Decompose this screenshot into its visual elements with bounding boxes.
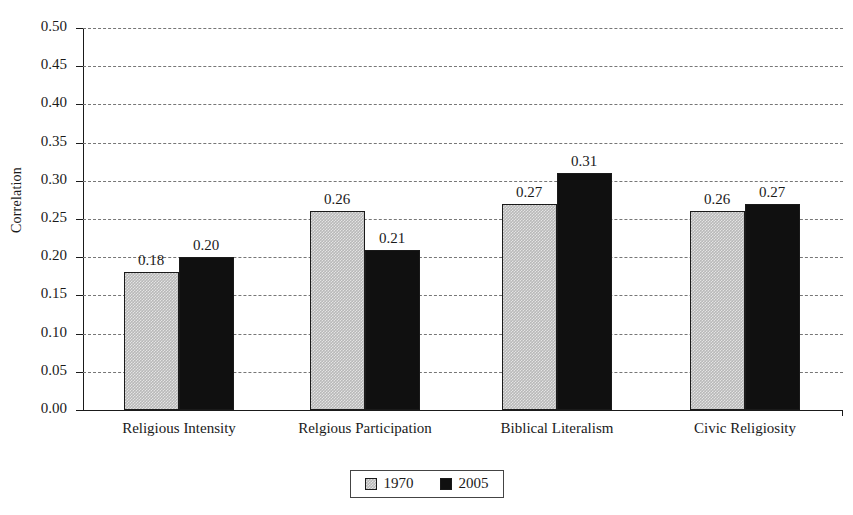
y-axis-tick-label: 0.50: [41, 18, 67, 35]
y-axis-tick: 0.45: [76, 66, 83, 67]
bar-value-label: 0.21: [379, 230, 405, 247]
bar-value-label: 0.26: [704, 191, 730, 208]
legend-entry-2005: 2005: [440, 475, 489, 492]
y-axis-tick: 0.50: [76, 28, 83, 29]
y-axis-tick: 0.10: [76, 334, 83, 335]
legend-entry-1970: 1970: [365, 475, 414, 492]
bar-value-label: 0.26: [324, 191, 350, 208]
bar-value-label: 0.18: [138, 252, 164, 269]
bar-group: 0.260.21: [310, 28, 420, 410]
y-axis-tick-label: 0.10: [41, 324, 67, 341]
y-axis-tick-label: 0.20: [41, 247, 67, 264]
y-axis-tick: 0.05: [76, 372, 83, 373]
y-axis-tick: 0.40: [76, 104, 83, 105]
y-axis-tick: 0.00: [76, 410, 83, 411]
bar-value-label: 0.20: [193, 237, 219, 254]
y-axis-tick-label: 0.00: [41, 400, 67, 417]
bar-1970-2: [310, 211, 365, 410]
legend-swatch-icon-2005: [440, 478, 452, 490]
bar-value-label: 0.31: [571, 153, 597, 170]
y-axis-title: Correlation: [9, 145, 25, 255]
y-axis-tick-label: 0.25: [41, 209, 67, 226]
y-axis-tick-label: 0.15: [41, 285, 67, 302]
y-axis-tick: 0.15: [76, 295, 83, 296]
y-axis-tick: 0.35: [76, 143, 83, 144]
plot-area: 0.000.050.100.150.200.250.300.350.400.45…: [83, 28, 843, 410]
bar-value-label: 0.27: [759, 184, 785, 201]
bar-2005-1: [179, 257, 234, 410]
legend: 1970 2005: [350, 470, 504, 498]
y-axis-tick-label: 0.30: [41, 171, 67, 188]
bar-1970-4: [690, 211, 745, 410]
y-axis-tick-label: 0.45: [41, 56, 67, 73]
legend-swatch-icon-1970: [365, 478, 377, 490]
y-axis-tick-label: 0.40: [41, 94, 67, 111]
bar-value-label: 0.27: [516, 184, 542, 201]
y-axis-tick-label: 0.05: [41, 362, 67, 379]
x-axis-category-label: Civic Religiosity: [615, 420, 853, 437]
bar-group: 0.260.27: [690, 28, 800, 410]
gridline: [83, 410, 843, 411]
y-axis-tick: 0.30: [76, 181, 83, 182]
y-axis-tick-label: 0.35: [41, 133, 67, 150]
y-axis-tick: 0.25: [76, 219, 83, 220]
bar-group: 0.270.31: [502, 28, 612, 410]
legend-label-2005: 2005: [459, 475, 489, 492]
bar-1970-1: [124, 272, 179, 410]
bar-chart: Correlation 0.000.050.100.150.200.250.30…: [0, 0, 853, 515]
bar-2005-3: [557, 173, 612, 410]
bar-group: 0.180.20: [124, 28, 234, 410]
bar-1970-3: [502, 204, 557, 410]
bar-2005-4: [745, 204, 800, 410]
bar-2005-2: [365, 250, 420, 410]
y-axis-tick: 0.20: [76, 257, 83, 258]
legend-label-1970: 1970: [384, 475, 414, 492]
